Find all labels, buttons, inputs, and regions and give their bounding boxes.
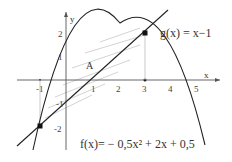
x-tick-2: 2 bbox=[116, 84, 121, 94]
y-axis-label: y bbox=[70, 14, 75, 24]
x-tick-1: 1 bbox=[91, 84, 96, 94]
x-tick-5: 5 bbox=[194, 84, 199, 94]
f-function-label: f(x)= − 0,5x² + 2x + 0,5 bbox=[80, 139, 195, 149]
intersection-point-left bbox=[38, 124, 43, 129]
intersection-point-right bbox=[143, 31, 148, 36]
y-tick-minus1: -1 bbox=[56, 99, 64, 109]
g-function-label: g(x) = x−1 bbox=[160, 28, 212, 38]
y-tick-1: 1 bbox=[58, 52, 63, 62]
y-tick-minus2: -2 bbox=[54, 124, 62, 134]
x-axis-label: x bbox=[204, 70, 209, 80]
x-tick-minus1: -1 bbox=[36, 84, 44, 94]
region-a-label: A bbox=[86, 61, 93, 71]
x-tick-4: 4 bbox=[168, 84, 173, 94]
x-tick-3: 3 bbox=[142, 84, 147, 94]
y-tick-2: 2 bbox=[58, 29, 63, 39]
